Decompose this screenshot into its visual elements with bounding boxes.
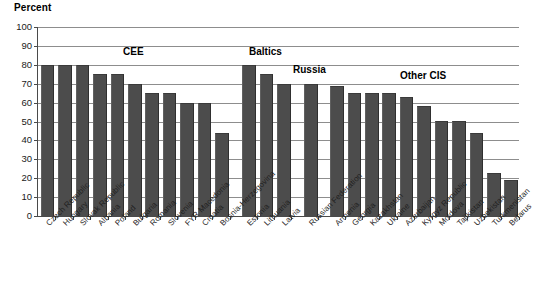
bar: [41, 65, 55, 216]
bar: [304, 84, 318, 216]
group-label: Other CIS: [400, 70, 446, 81]
bar: [348, 93, 362, 216]
y-tick-label: 30: [4, 154, 32, 164]
y-tick-label: 70: [4, 79, 32, 89]
y-tick-label: 90: [4, 41, 32, 51]
group-label: CEE: [123, 46, 144, 57]
gridline: [38, 65, 519, 66]
y-tick-label: 10: [4, 192, 32, 202]
y-tick-label: 50: [4, 117, 32, 127]
bar: [277, 84, 291, 216]
bar: [58, 65, 72, 216]
y-tick-label: 20: [4, 173, 32, 183]
y-axis-title: Percent: [14, 2, 51, 13]
y-tick-label: 40: [4, 135, 32, 145]
y-tick-label: 60: [4, 98, 32, 108]
bar: [145, 93, 159, 216]
bar: [128, 84, 142, 216]
group-label: Baltics: [249, 46, 282, 57]
y-tick-label: 0: [4, 211, 32, 221]
y-tick-label: 100: [4, 22, 32, 32]
gridline: [38, 27, 519, 28]
y-tick-label: 80: [4, 60, 32, 70]
bar: [163, 93, 177, 216]
group-label: Russia: [293, 64, 326, 75]
bar: [260, 74, 274, 216]
bar: [365, 93, 379, 216]
